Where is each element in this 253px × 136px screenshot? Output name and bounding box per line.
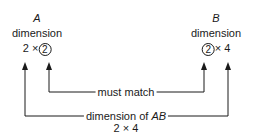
- product-name: AB: [151, 110, 166, 122]
- matrix-a-dimension: 2 ×2: [23, 42, 52, 56]
- product-dimension-text: dimension of: [86, 110, 148, 122]
- product-dimension-value: 2 × 4: [114, 122, 139, 134]
- arrow-up-icon: [225, 62, 231, 70]
- matrix-b-rows-circled: 2: [202, 43, 215, 56]
- matrix-a-cols-circled: 2: [38, 43, 51, 56]
- matrix-b-dimension: 2× 4: [202, 42, 231, 56]
- arrow-up-icon: [22, 62, 28, 70]
- times-sign: ×: [215, 42, 221, 54]
- matrix-a-name: A: [33, 12, 40, 24]
- matrix-a-label: dimension: [12, 27, 62, 39]
- arrow-up-icon: [201, 62, 207, 70]
- matrix-b-label: dimension: [191, 27, 241, 39]
- arrow-up-icon: [46, 62, 52, 70]
- matrix-b-cols: 4: [224, 42, 230, 54]
- product-dimension-label: dimension of AB: [84, 110, 168, 122]
- matrix-a-rows: 2: [23, 42, 29, 54]
- matrix-b-name: B: [212, 12, 219, 24]
- must-match-label: must match: [96, 86, 157, 98]
- times-sign: ×: [32, 42, 38, 54]
